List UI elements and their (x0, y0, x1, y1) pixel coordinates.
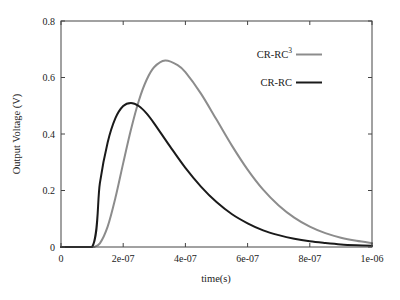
x-axis-label: time(s) (201, 273, 231, 285)
legend-label-cr-rc: CR-RC (260, 77, 292, 88)
x-tick-label: 1e-06 (361, 253, 384, 264)
legend-label-cr-rc3: CR-RC3 (257, 46, 293, 60)
y-tick-label: 0.8 (43, 16, 56, 27)
chart: 02e-074e-076e-078e-071e-06 00.20.40.60.8… (0, 0, 400, 300)
x-tick-label: 4e-07 (174, 253, 197, 264)
x-tick-label: 0 (59, 253, 64, 264)
y-tick-label: 0.4 (43, 129, 56, 140)
x-tick-label: 2e-07 (112, 253, 135, 264)
y-tick-label: 0 (50, 242, 55, 253)
y-axis-label: Output Voltage (V) (11, 93, 23, 174)
y-tick-label: 0.2 (43, 185, 56, 196)
y-tick-label: 0.6 (43, 72, 56, 83)
x-tick-label: 6e-07 (236, 253, 259, 264)
x-tick-label: 8e-07 (298, 253, 321, 264)
